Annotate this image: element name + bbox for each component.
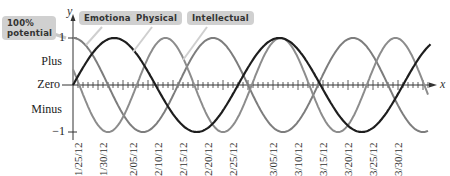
x-axis-arrow-icon [429,83,437,88]
x-tick-label: 3/25/12 [367,142,379,176]
x-tick-label: 2/20/12 [202,142,214,176]
x-tick-label: 2/05/12 [127,142,139,176]
y-label-minus: Minus [2,102,62,117]
x-axis-label: x [440,77,445,92]
physical-pointer [133,27,152,52]
biorhythm-chart [0,0,450,176]
x-tick-label: 3/05/12 [267,142,279,176]
x-tick-label: 2/10/12 [152,142,164,176]
y-axis-label: y [67,4,72,19]
y-label-zero: Zero [0,77,60,92]
x-tick-label: 3/20/12 [342,142,354,176]
x-tick-label: 1/30/12 [97,142,109,176]
x-tick-label: 3/30/12 [392,142,404,176]
y-label-neg-one: −1 [5,124,65,139]
y-label-plus: Plus [2,54,62,69]
x-tick-label: 2/25/12 [227,142,239,176]
emotional-pointer [86,27,102,45]
x-tick-label: 2/15/12 [177,142,189,176]
y-label-one: 1 [5,30,65,45]
x-tick-label: 3/15/12 [317,142,329,176]
legend-emotional: Emotional [79,11,139,25]
legend-intellectual: Intellectual [187,11,254,25]
x-tick-label: 3/10/12 [292,142,304,176]
x-tick-label: 1/25/12 [72,142,84,176]
legend-physical: Physical [131,11,182,25]
